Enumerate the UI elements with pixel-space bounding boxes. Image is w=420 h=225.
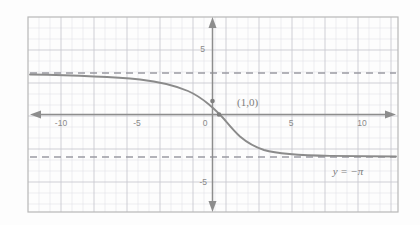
coordinate-plane: -10 -5 0 5 10 5 -5 (1,0) y = −π <box>0 0 420 225</box>
asymptote-annotation: y = −π <box>332 165 364 177</box>
x-tick-label-ten: 10 <box>357 118 367 128</box>
point-annotation: (1,0) <box>237 96 258 109</box>
x-tick-label-neg-five: -5 <box>133 118 141 128</box>
point-on-y-axis <box>210 99 215 104</box>
y-tick-label-five: 5 <box>200 44 205 54</box>
graph-figure: -10 -5 0 5 10 5 -5 (1,0) y = −π <box>0 0 420 225</box>
x-tick-label-neg-ten: -10 <box>55 118 68 128</box>
y-tick-label-neg-five: -5 <box>199 177 207 187</box>
x-tick-label-five: 5 <box>289 118 294 128</box>
point-one-zero <box>217 112 222 117</box>
x-tick-label-zero: 0 <box>203 118 208 128</box>
